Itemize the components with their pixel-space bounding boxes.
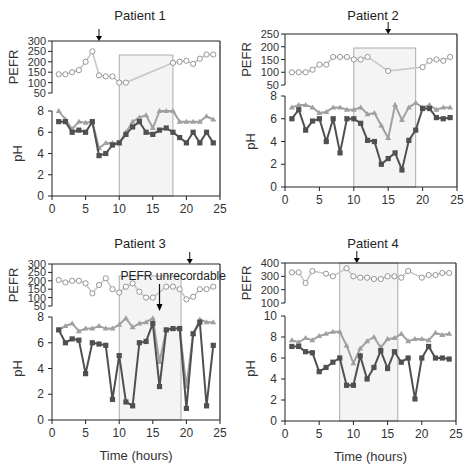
ph-dark-marker (324, 139, 329, 144)
pefr-marker (103, 74, 108, 79)
ph-dark-marker (164, 125, 169, 130)
ph-dark-marker (170, 326, 175, 331)
x-tick-label: 15 (382, 193, 396, 207)
pefr-marker (170, 284, 175, 289)
pefr-marker (351, 57, 356, 62)
panel-3: 50100150200250300PEFR02468pH0510152025Ti… (6, 252, 227, 463)
pefr-marker (90, 291, 95, 296)
pefr-marker (83, 281, 88, 286)
x-tick-label: 0 (49, 426, 56, 440)
ph-tick-label: 4 (270, 372, 277, 386)
ph-dark-marker (358, 121, 363, 126)
ph-tick-label: 0 (37, 413, 44, 427)
ph-dark-marker (419, 355, 424, 360)
pefr-marker (191, 294, 196, 299)
ph-tick-label: 8 (270, 89, 277, 103)
ph-dark-marker (184, 406, 189, 411)
ph-dark-marker (70, 130, 75, 135)
pefr-marker (204, 287, 209, 292)
ph-dark-marker (63, 119, 68, 124)
ph-dark-marker (344, 116, 349, 121)
ph-dark-marker (204, 130, 209, 135)
pefr-marker (378, 276, 383, 281)
ph-dark-marker (440, 355, 445, 360)
ph-light-marker (303, 335, 309, 340)
ph-dark-marker (351, 383, 356, 388)
pefr-tick-label: 150 (261, 54, 279, 66)
ph-dark-marker (137, 340, 142, 345)
pefr-tick-label: 250 (261, 28, 279, 40)
ph-dark-marker (413, 128, 418, 133)
ph-dark-marker (365, 138, 370, 143)
x-tick-label: 15 (146, 426, 160, 440)
ph-dark-marker (191, 130, 196, 135)
x-tick-label: 5 (82, 426, 89, 440)
ph-dark-marker (123, 132, 128, 137)
ph-tick-label: 8 (37, 104, 44, 118)
ph-dark-marker (90, 119, 95, 124)
pefr-marker (296, 270, 301, 275)
ph-dark-marker (197, 320, 202, 325)
ph-tick-label: 6 (270, 112, 277, 126)
ph-dark-marker (204, 403, 209, 408)
ph-dark-marker (296, 107, 301, 112)
ph-dark-marker (420, 106, 425, 111)
pefr-marker (197, 56, 202, 61)
ph-tick-label: 6 (37, 125, 44, 139)
pefr-marker (310, 67, 315, 72)
pefr-marker (56, 72, 61, 77)
x-tick-label: 10 (347, 427, 361, 441)
ph-dark-marker (90, 340, 95, 345)
pefr-marker (303, 280, 308, 285)
pefr-marker (56, 277, 61, 282)
ph-light-marker (69, 320, 75, 325)
ph-tick-label: 2 (270, 157, 277, 171)
ph-dark-marker (197, 140, 202, 145)
pefr-marker (365, 54, 370, 59)
ph-dark-marker (83, 371, 88, 376)
pefr-marker (211, 284, 216, 289)
pefr-marker (426, 272, 431, 277)
ph-dark-marker (330, 360, 335, 365)
pefr-marker (331, 54, 336, 59)
pefr-marker (399, 275, 404, 280)
x-tick-label: 10 (113, 426, 127, 440)
ph-dark-marker (130, 124, 135, 129)
pefr-marker (289, 70, 294, 75)
pefr-marker (420, 65, 425, 70)
pefr-marker (76, 68, 81, 73)
pefr-marker (303, 70, 308, 75)
ph-dark-marker (191, 331, 196, 336)
ph-dark-marker (303, 128, 308, 133)
pefr-tick-label: 100 (261, 66, 279, 78)
pefr-marker (70, 70, 75, 75)
pefr-marker (170, 60, 175, 65)
x-tick-label: 20 (415, 427, 429, 441)
ph-dark-marker (96, 341, 101, 346)
event-arrow-icon (187, 259, 193, 264)
ph-dark-marker (427, 106, 432, 111)
ph-dark-marker (406, 138, 411, 143)
ph-dark-marker (103, 151, 108, 156)
pefr-marker (96, 282, 101, 287)
panel-2: 50100150200250PEFR02468pH0510152025 (239, 22, 464, 207)
pefr-marker (137, 289, 142, 294)
pefr-marker (90, 49, 95, 54)
ph-dark-marker (130, 403, 135, 408)
ph-dark-marker (103, 343, 108, 348)
ph-dark-marker (150, 321, 155, 326)
pefr-marker (117, 80, 122, 85)
ph-dark-marker (441, 116, 446, 121)
ph-dark-marker (448, 115, 453, 120)
ph-dark-marker (399, 360, 404, 365)
ph-dark-marker (157, 128, 162, 133)
x-axis-label: Time (hours) (99, 448, 172, 463)
ph-dark-marker (150, 132, 155, 137)
x-tick-label: 20 (416, 193, 430, 207)
ph-dark-marker (447, 356, 452, 361)
pefr-marker (447, 270, 452, 275)
ph-tick-label: 0 (270, 414, 277, 428)
pefr-axis-label: PEFR (239, 42, 254, 77)
pefr-marker (110, 74, 115, 79)
ph-dark-marker (331, 116, 336, 121)
